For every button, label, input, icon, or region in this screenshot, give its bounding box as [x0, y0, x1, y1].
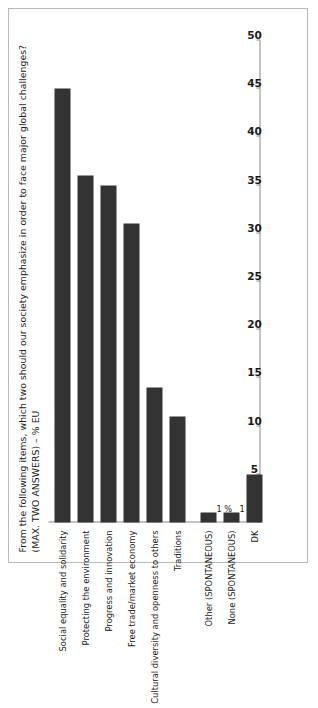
bar[interactable]: [246, 474, 262, 522]
bar[interactable]: [146, 387, 162, 522]
category-label: Free trade/market economy: [126, 530, 136, 708]
bar[interactable]: [100, 185, 116, 522]
category-label: Other (SPONTANEOUS): [203, 530, 213, 708]
category-label: Social equality and solidarity: [57, 530, 67, 708]
bar[interactable]: [77, 175, 93, 522]
category-label: Cultural diversity and openness to other…: [149, 530, 159, 708]
bar[interactable]: [169, 416, 185, 522]
chart-stage: From the following items, which two shou…: [12, 13, 304, 558]
bar[interactable]: [123, 223, 139, 522]
category-label: Traditions: [172, 530, 182, 708]
bar-series: 1 %1 %: [48, 40, 260, 522]
bar-value-label: 1 %: [216, 503, 232, 513]
bar[interactable]: [223, 512, 239, 522]
chart-frame: From the following items, which two shou…: [8, 8, 308, 563]
category-label: DK: [249, 530, 259, 708]
category-label: None (SPONTANEOUS): [226, 530, 236, 708]
plot-area: 05101520253035404550 1 %1 % Social equal…: [48, 40, 260, 522]
category-label: Progress and innovation: [103, 530, 113, 708]
chart-title: From the following items, which two shou…: [16, 32, 41, 552]
bar[interactable]: [200, 512, 216, 522]
axis-tick-label: 50: [247, 28, 262, 40]
bar[interactable]: [54, 88, 70, 522]
category-label: Protecting the environment: [80, 530, 90, 708]
